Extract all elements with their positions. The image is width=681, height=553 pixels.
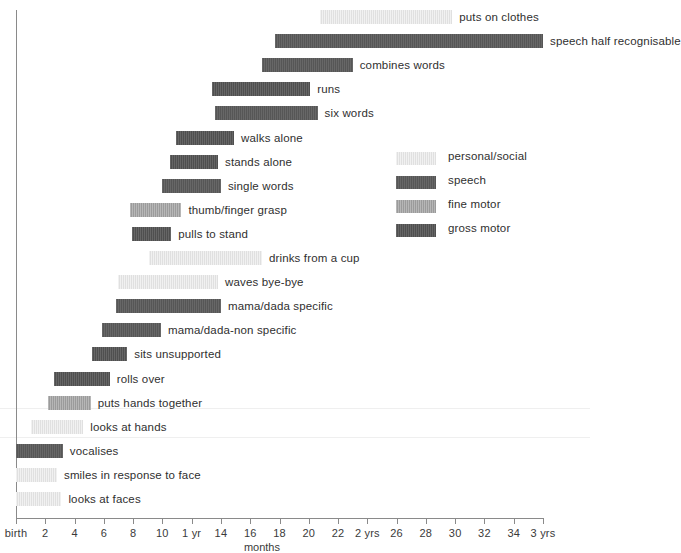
x-axis-tick <box>192 518 193 524</box>
milestone-bar[interactable] <box>102 323 161 337</box>
x-axis-tick <box>45 518 46 524</box>
milestone-bar[interactable] <box>320 10 452 24</box>
x-axis-tick <box>543 518 544 524</box>
milestone-label: mama/dada-non specific <box>168 324 297 336</box>
x-axis-tick-label: 20 <box>302 527 315 539</box>
x-axis-tick-label: 10 <box>156 527 169 539</box>
milestone-row: drinks from a cup <box>0 251 590 265</box>
x-axis-tick <box>514 518 515 524</box>
milestone-row: runs <box>0 82 590 96</box>
milestone-label: looks at faces <box>68 493 140 505</box>
x-axis-tick <box>280 518 281 524</box>
milestone-row: thumb/finger grasp <box>0 203 590 217</box>
milestone-row: speech half recognisable <box>0 34 590 48</box>
x-axis-tick-label: 22 <box>332 527 345 539</box>
milestone-bar[interactable] <box>16 444 63 458</box>
x-axis-tick-label: 2 yrs <box>355 527 380 539</box>
x-axis-tick <box>367 518 368 524</box>
milestone-label: thumb/finger grasp <box>188 204 287 216</box>
x-axis-tick-label: 30 <box>449 527 462 539</box>
milestone-bar[interactable] <box>149 251 262 265</box>
x-axis-tick <box>75 518 76 524</box>
x-axis-tick <box>455 518 456 524</box>
legend-swatch <box>396 176 436 189</box>
milestone-bar[interactable] <box>275 34 543 48</box>
x-axis-tick <box>221 518 222 524</box>
milestone-row: sits unsupported <box>0 347 590 361</box>
milestone-row: single words <box>0 179 590 193</box>
milestone-row: mama/dada-non specific <box>0 323 590 337</box>
milestone-bar[interactable] <box>215 106 317 120</box>
milestone-label: drinks from a cup <box>269 252 360 264</box>
legend-swatch <box>396 224 436 237</box>
milestone-bar[interactable] <box>212 82 310 96</box>
x-axis-tick <box>133 518 134 524</box>
milestone-label: speech half recognisable <box>550 35 681 47</box>
milestone-label: combines words <box>360 59 445 71</box>
milestone-label: stands alone <box>225 156 292 168</box>
milestone-bar[interactable] <box>31 420 84 434</box>
x-axis-tick <box>162 518 163 524</box>
milestone-bar[interactable] <box>262 58 353 72</box>
x-axis-tick <box>309 518 310 524</box>
milestone-bar[interactable] <box>118 275 218 289</box>
milestone-label: mama/dada specific <box>228 300 333 312</box>
x-axis-title: months <box>244 541 280 553</box>
x-axis-tick-label: 2 <box>42 527 48 539</box>
milestone-label: six words <box>325 107 374 119</box>
milestone-row: looks at faces <box>0 492 590 506</box>
x-axis-tick-label: 28 <box>420 527 433 539</box>
milestone-label: waves bye-bye <box>225 276 304 288</box>
milestone-label: looks at hands <box>90 421 166 433</box>
milestone-bar[interactable] <box>116 299 221 313</box>
milestone-bar[interactable] <box>16 492 61 506</box>
milestone-row: puts hands together <box>0 396 590 410</box>
legend-swatch <box>396 200 436 213</box>
x-axis-tick-label: 16 <box>244 527 257 539</box>
legend-label: fine motor <box>448 198 501 210</box>
milestone-bar[interactable] <box>132 227 172 241</box>
milestone-row: smiles in response to face <box>0 468 590 482</box>
milestone-row: waves bye-bye <box>0 275 590 289</box>
x-axis-tick <box>397 518 398 524</box>
milestone-label: runs <box>317 83 340 95</box>
milestone-row: looks at hands <box>0 420 590 434</box>
milestone-row: mama/dada specific <box>0 299 590 313</box>
milestone-bar[interactable] <box>130 203 181 217</box>
milestone-bar[interactable] <box>54 372 110 386</box>
legend-swatch <box>396 152 436 165</box>
x-axis-tick-label: 4 <box>71 527 77 539</box>
x-axis-tick-label: 26 <box>390 527 403 539</box>
x-axis-tick-label: birth <box>5 527 27 539</box>
milestone-label: vocalises <box>70 445 119 457</box>
milestone-bar[interactable] <box>48 396 90 410</box>
milestone-label: smiles in response to face <box>64 469 201 481</box>
milestone-row: vocalises <box>0 444 590 458</box>
x-axis-tick <box>426 518 427 524</box>
milestone-label: walks alone <box>241 132 303 144</box>
milestone-bar[interactable] <box>162 179 221 193</box>
x-axis-tick-label: 34 <box>507 527 520 539</box>
milestone-bar[interactable] <box>16 468 57 482</box>
milestone-label: single words <box>228 180 294 192</box>
milestone-label: pulls to stand <box>178 228 248 240</box>
milestone-bar[interactable] <box>170 155 218 169</box>
x-axis-tick-label: 6 <box>101 527 107 539</box>
milestone-label: rolls over <box>117 373 165 385</box>
milestone-row: walks alone <box>0 131 590 145</box>
x-axis-tick <box>16 518 17 524</box>
milestone-row: rolls over <box>0 372 590 386</box>
x-axis-tick <box>338 518 339 524</box>
milestone-row: puts on clothes <box>0 10 590 24</box>
legend-label: gross motor <box>448 222 510 234</box>
milestone-bar[interactable] <box>176 131 235 145</box>
x-axis-tick <box>484 518 485 524</box>
milestone-label: sits unsupported <box>134 348 221 360</box>
milestone-bar[interactable] <box>92 347 127 361</box>
legend-label: speech <box>448 174 486 186</box>
x-axis-tick <box>104 518 105 524</box>
milestone-label: puts hands together <box>98 397 203 409</box>
x-axis-tick-label: 1 yr <box>182 527 201 539</box>
x-axis-tick-label: 32 <box>478 527 491 539</box>
